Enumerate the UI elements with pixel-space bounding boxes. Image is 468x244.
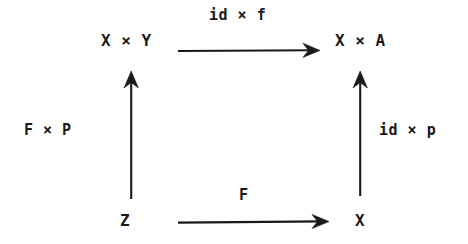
top-arrow xyxy=(178,43,320,57)
object-label-bottom-right: X xyxy=(355,213,365,229)
morphism-label-right: id × p xyxy=(379,123,436,138)
object-label-top-right: X × A xyxy=(335,33,386,49)
morphism-label-bottom: F xyxy=(239,188,249,203)
bottom-arrow xyxy=(178,214,329,228)
object-label-top-left: X × Y xyxy=(101,33,152,49)
commutative-diagram: X × Y X × A Z X id × f F × P id × p F xyxy=(0,0,468,244)
morphism-label-left: F × P xyxy=(24,123,72,138)
morphism-label-top: id × f xyxy=(209,8,266,23)
object-label-bottom-left: Z xyxy=(120,213,130,229)
left-arrow xyxy=(124,71,138,199)
right-arrow xyxy=(353,71,367,196)
